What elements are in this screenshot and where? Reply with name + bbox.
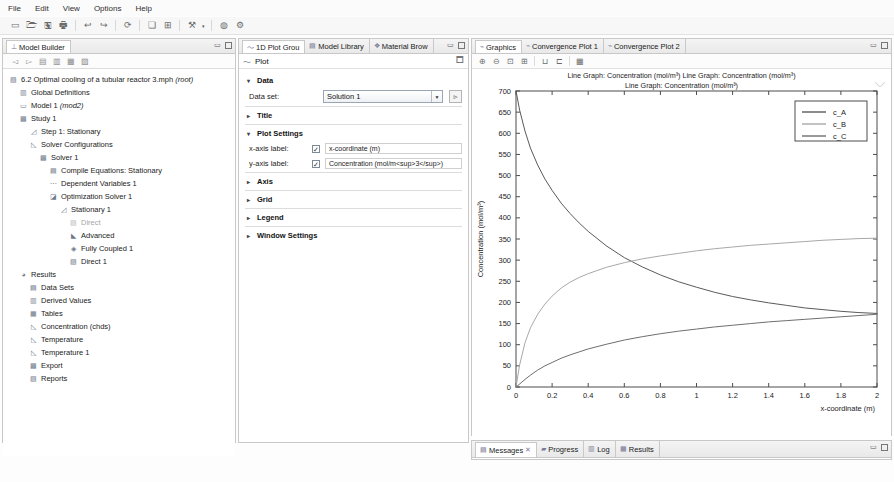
window-icon[interactable]: ❏	[144, 19, 159, 33]
plot-window-icon[interactable]: 🗖	[456, 54, 464, 68]
section-header-data[interactable]: ▾ Data	[239, 73, 468, 88]
build-icon[interactable]: ⚒	[184, 19, 199, 33]
show-all-icon[interactable]: ▤	[37, 57, 48, 66]
tab-convergence-plot-2[interactable]: ⌁ Convergence Plot 2	[604, 39, 686, 53]
tab-model-library[interactable]: ▤ Model Library	[305, 39, 369, 53]
dropdown-arrow-icon[interactable]: ▾	[200, 23, 207, 29]
tree-node[interactable]: ◣Advanced	[3, 229, 235, 242]
settings-icon[interactable]: ⚙	[232, 19, 247, 33]
tree-node[interactable]: ▨Reports	[3, 372, 235, 385]
expand-icon[interactable]: ▻	[23, 57, 34, 66]
tree-node[interactable]: ▦Tables	[3, 307, 235, 320]
tree-node[interactable]: ◪Optimization Solver 1	[3, 190, 235, 203]
tab-label: 1D Plot Grou	[256, 43, 299, 52]
tree-node[interactable]: ▭Model 1 (mod2)	[3, 99, 235, 112]
tab-material-browser[interactable]: ❖ Material Brow	[370, 39, 434, 53]
minimize-icon[interactable]: ▭	[214, 41, 221, 49]
undo-icon[interactable]: ↩	[80, 19, 95, 33]
refresh-icon[interactable]: ⟳	[120, 19, 135, 33]
zoom-in-icon[interactable]: ⊕	[476, 55, 488, 67]
tree-node[interactable]: ▩Study 1	[3, 112, 235, 125]
minimize-icon[interactable]: ▭	[870, 41, 877, 49]
advanced-icon: ◣	[69, 231, 78, 240]
chevron-down-icon[interactable]: ▼	[431, 91, 442, 102]
section-header-plot-settings[interactable]: ▾ Plot Settings	[239, 126, 468, 141]
zoom-out-icon[interactable]: ⊖	[490, 55, 502, 67]
tab-convergence-plot-1[interactable]: ⌁ Convergence Plot 1	[522, 39, 604, 53]
menu-item-options[interactable]: Options	[92, 4, 124, 13]
tree-node[interactable]: ◿Step 1: Stationary	[3, 125, 235, 138]
plot-icon: 〜	[243, 56, 251, 67]
model-builder-toolbar: ◅ ▻ ▤ ▥ ▦ ▨	[3, 54, 235, 69]
plot-title: Line Graph: Concentration (mol/m³) Line …	[472, 71, 891, 91]
go-to-source-button[interactable]: ⊳	[449, 90, 462, 103]
tree-node[interactable]: ◺Concentration (chds)	[3, 320, 235, 333]
menu-item-file[interactable]: File	[6, 4, 23, 13]
section-header-title[interactable]: ▸ Title	[239, 108, 468, 123]
y-tick-label: 600	[498, 129, 511, 138]
chevron-right-icon: ▸	[247, 178, 253, 185]
minimize-icon[interactable]: ▭	[870, 443, 877, 451]
tree-node[interactable]: ⋯Dependent Variables 1	[3, 177, 235, 190]
maximize-icon[interactable]	[881, 42, 888, 49]
tree-node[interactable]: ▤Compile Equations: Stationary	[3, 164, 235, 177]
section-header-window-settings[interactable]: ▸ Window Settings	[239, 228, 468, 243]
tree-node[interactable]: ▥Global Definitions	[3, 86, 235, 99]
tree-node[interactable]: ▧6.2 Optimal cooling of a tubular reacto…	[3, 73, 235, 86]
dataset-select[interactable]: Solution 1 ▼	[323, 90, 443, 103]
save-icon[interactable]: 🖫	[40, 19, 55, 33]
globe-icon: ▥	[19, 88, 28, 97]
tree-node[interactable]: ◿Stationary 1	[3, 203, 235, 216]
menu-item-help[interactable]: Help	[133, 4, 153, 13]
tab-model-builder[interactable]: ⊥ Model Builder	[6, 40, 71, 54]
tab-results[interactable]: ▦ Results	[616, 441, 660, 457]
tab-graphics[interactable]: ⌁ Graphics	[475, 40, 522, 54]
tree-node[interactable]: ▤Data Sets	[3, 281, 235, 294]
tree-node[interactable]: ▥Derived Values	[3, 294, 235, 307]
filter-icon[interactable]: ▥	[51, 57, 62, 66]
tab-messages[interactable]: ▤ Messages ✕	[475, 442, 537, 458]
section-header-grid[interactable]: ▸ Grid	[239, 192, 468, 207]
list-icon[interactable]: ▨	[79, 57, 90, 66]
section-header-axis[interactable]: ▸ Axis	[239, 174, 468, 189]
redo-icon[interactable]: ↪	[96, 19, 111, 33]
minimize-icon[interactable]: ▭	[447, 41, 454, 49]
snapshot-icon[interactable]: ▦	[574, 55, 586, 67]
y-axis-label-row: y-axis label: ✓ Concentration (mol/m<sup…	[239, 156, 468, 171]
help-icon[interactable]: ◍	[216, 19, 231, 33]
zoom-box-icon[interactable]: ⊡	[504, 55, 516, 67]
tab-1d-plot-group[interactable]: 〜 1D Plot Grou	[242, 40, 305, 54]
print-icon[interactable]: 🖶	[56, 19, 71, 33]
menu-item-edit[interactable]: Edit	[33, 4, 51, 13]
tree-node[interactable]: ◺Temperature 1	[3, 346, 235, 359]
transparency-icon[interactable]: ⊏	[553, 55, 565, 67]
scene-light-icon[interactable]: ⊔	[539, 55, 551, 67]
tree-node[interactable]: ◺Solver Configurations	[3, 138, 235, 151]
section-header-legend[interactable]: ▸ Legend	[239, 210, 468, 225]
maximize-icon[interactable]	[225, 42, 232, 49]
group-icon[interactable]: ▦	[65, 57, 76, 66]
maximize-icon[interactable]	[881, 444, 888, 451]
tree-node[interactable]: ◕Results	[3, 268, 235, 281]
tree-node[interactable]: ▨Direct 1	[3, 255, 235, 268]
layout-icon[interactable]: ⊞	[160, 19, 175, 33]
zoom-extents-icon[interactable]: ⊞	[518, 55, 530, 67]
y-axis-label-input[interactable]: Concentration (mol/m<sup>3</sup>)	[325, 158, 462, 169]
tree-node[interactable]: ▨Direct	[3, 216, 235, 229]
tree-node[interactable]: ◈Fully Coupled 1	[3, 242, 235, 255]
tab-progress[interactable]: ▰ Progress	[537, 441, 584, 457]
x-axis-label-input[interactable]: x-coordinate (m)	[325, 143, 462, 154]
open-icon[interactable]: 🗁	[24, 19, 39, 33]
collapse-icon[interactable]: ◅	[9, 57, 20, 66]
new-icon[interactable]: ▭	[8, 19, 23, 33]
x-axis-label-checkbox[interactable]: ✓	[312, 145, 320, 153]
menu-item-view[interactable]: View	[61, 4, 82, 13]
tree-node[interactable]: ◺Temperature	[3, 333, 235, 346]
tree-node[interactable]: ▩Export	[3, 359, 235, 372]
y-axis-label-checkbox[interactable]: ✓	[312, 160, 320, 168]
maximize-icon[interactable]	[458, 42, 465, 49]
tab-log[interactable]: ▥ Log	[584, 441, 616, 457]
divider	[245, 106, 462, 107]
close-icon[interactable]: ✕	[525, 446, 531, 454]
tree-node[interactable]: ▩Solver 1	[3, 151, 235, 164]
